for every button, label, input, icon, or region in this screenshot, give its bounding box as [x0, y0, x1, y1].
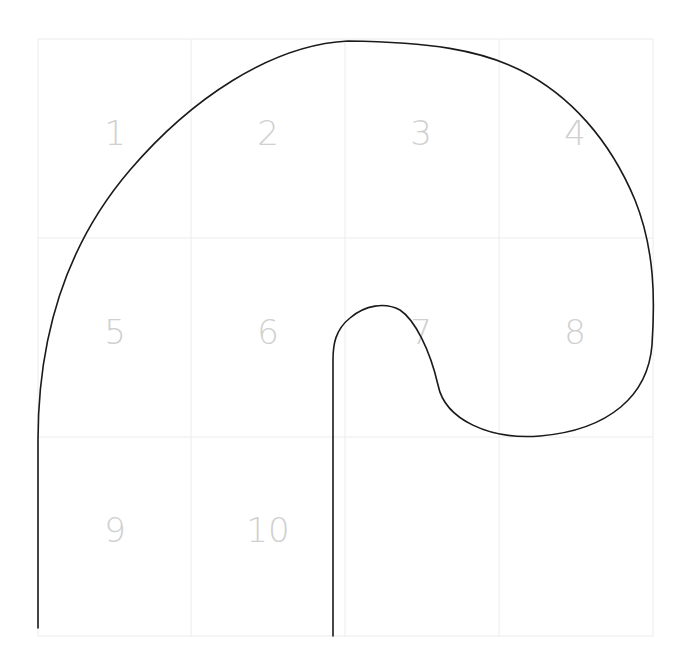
cell-number-label: 4	[564, 113, 586, 153]
diagram-canvas: 12345678910	[0, 0, 690, 664]
traced-stroke	[38, 41, 653, 636]
cell-number-label: 6	[257, 312, 279, 352]
cell-number-label: 7	[410, 312, 432, 352]
cell-number-label: 3	[410, 113, 432, 153]
cell-number-label: 2	[257, 113, 279, 153]
cell-number-label: 1	[104, 113, 126, 153]
cell-number-label: 5	[104, 312, 126, 352]
cell-number-label: 8	[564, 312, 586, 352]
grid-lines	[38, 39, 653, 636]
cell-number-label: 9	[104, 510, 126, 550]
cell-number-label: 10	[246, 510, 289, 550]
